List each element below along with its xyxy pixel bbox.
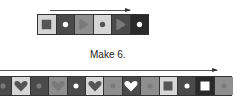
bottom-pattern-cell xyxy=(0,77,12,95)
heart-icon xyxy=(12,77,30,95)
bottom-direction-arrow xyxy=(0,70,217,71)
arrowhead-icon xyxy=(125,8,131,12)
top-pattern-cell xyxy=(94,15,113,34)
top-direction-arrow xyxy=(50,10,130,11)
top-pattern-cell xyxy=(38,15,57,34)
instruction-caption: Make 6. xyxy=(90,49,126,60)
top-pattern-cell xyxy=(75,15,94,34)
top-pattern-cell xyxy=(112,15,131,34)
square-icon xyxy=(196,77,214,95)
bottom-pattern-cell xyxy=(86,77,104,95)
dot-icon xyxy=(104,77,122,95)
top-pattern-strip xyxy=(37,14,149,35)
top-pattern-cell xyxy=(131,15,150,34)
bottom-pattern-cell xyxy=(123,77,141,95)
bottom-pattern-cell xyxy=(104,77,122,95)
bottom-pattern-cell xyxy=(49,77,67,95)
triangle-icon xyxy=(74,15,93,34)
dot-icon xyxy=(178,77,196,95)
bottom-pattern-cell xyxy=(178,77,196,95)
bottom-pattern-strip xyxy=(0,76,232,96)
dot-icon xyxy=(215,77,233,95)
triangle-icon xyxy=(111,15,130,34)
bottom-pattern-cell xyxy=(68,77,86,95)
dot-icon xyxy=(0,77,12,95)
heart-icon xyxy=(49,77,67,95)
dot-icon xyxy=(141,77,159,95)
bottom-pattern-cell xyxy=(196,77,214,95)
square-icon xyxy=(37,15,56,34)
bottom-pattern-cell xyxy=(160,77,178,95)
arrowhead-icon xyxy=(212,68,218,72)
heart-icon xyxy=(86,77,104,95)
dot-icon xyxy=(93,15,112,34)
bottom-pattern-cell xyxy=(31,77,49,95)
dot-icon xyxy=(56,15,75,34)
dot-icon xyxy=(67,77,85,95)
top-pattern-cell xyxy=(57,15,76,34)
dot-icon xyxy=(130,15,149,34)
heart-icon xyxy=(122,77,140,95)
dot-icon xyxy=(30,77,48,95)
square-icon xyxy=(159,77,177,95)
bottom-pattern-cell xyxy=(12,77,30,95)
bottom-pattern-cell xyxy=(215,77,233,95)
bottom-pattern-cell xyxy=(141,77,159,95)
